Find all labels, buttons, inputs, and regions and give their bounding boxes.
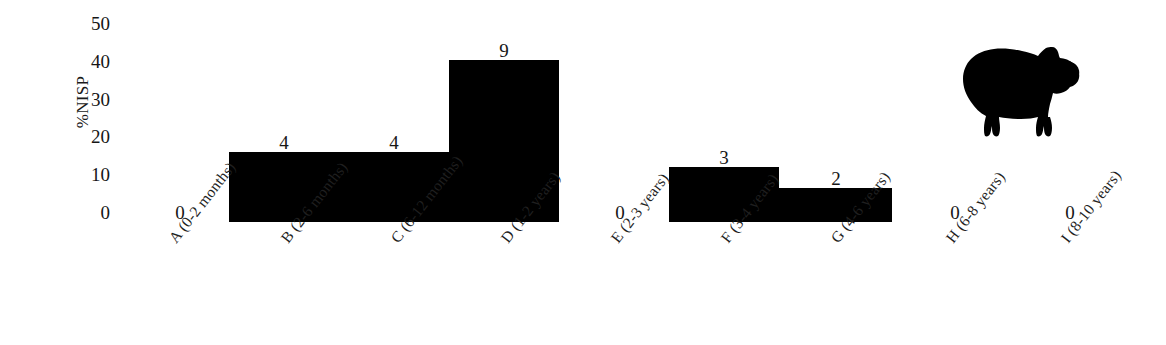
bar-value-label-d: 9 xyxy=(474,41,534,60)
chart-container: %NISP 50403020100 044903200 A (0-2 month… xyxy=(0,0,1166,345)
bar-value-label-c: 4 xyxy=(364,133,424,152)
bar-value-label-f: 3 xyxy=(694,148,754,167)
bar-value-label-g: 2 xyxy=(806,169,866,188)
bar-value-label-b: 4 xyxy=(254,133,314,152)
sheep-silhouette-icon xyxy=(958,40,1084,140)
